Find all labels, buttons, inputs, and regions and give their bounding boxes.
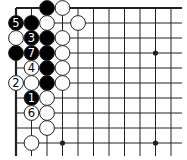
white-stone	[55, 76, 70, 91]
white-stone	[40, 91, 55, 106]
white-stone-icon	[40, 91, 55, 106]
move-number-label: 3	[28, 31, 35, 45]
white-stone	[40, 106, 55, 121]
white-stone	[40, 16, 55, 31]
star-point-icon	[153, 50, 158, 55]
black-stone-icon	[40, 31, 55, 46]
black-stone-icon	[24, 16, 39, 31]
move-number-label: 7	[28, 46, 35, 60]
black-stone: 5	[9, 16, 24, 31]
black-stone	[40, 76, 55, 91]
black-stone-icon	[40, 61, 55, 76]
black-stone-icon	[40, 1, 55, 16]
move-number-label: 5	[12, 16, 19, 30]
black-stone	[9, 46, 24, 61]
white-stone	[55, 1, 70, 16]
star-point-icon	[60, 140, 65, 145]
white-stone-icon	[55, 1, 70, 16]
white-stone	[24, 76, 39, 91]
black-stone-icon	[40, 46, 55, 61]
white-stone-icon	[55, 46, 70, 61]
white-stone: 4	[24, 61, 39, 76]
white-stone: 2	[9, 76, 24, 91]
black-stone: 3	[24, 31, 39, 46]
black-stone	[40, 1, 55, 16]
move-number-label: 6	[28, 106, 35, 120]
black-stone	[40, 61, 55, 76]
white-stone-icon	[24, 76, 39, 91]
white-stone: 6	[24, 106, 39, 121]
white-stone-icon	[71, 16, 86, 31]
move-number-label: 1	[28, 91, 35, 105]
black-stone: 1	[24, 91, 39, 106]
black-stone-icon	[9, 46, 24, 61]
black-stone	[40, 46, 55, 61]
white-stone-icon	[55, 61, 70, 76]
white-stone-icon	[40, 106, 55, 121]
white-stone	[55, 61, 70, 76]
white-stone	[9, 31, 24, 46]
white-stone	[55, 31, 70, 46]
black-stone: 7	[24, 46, 39, 61]
white-stone-icon	[24, 136, 39, 151]
white-stone	[40, 121, 55, 136]
black-stone	[24, 16, 39, 31]
black-stone	[40, 31, 55, 46]
black-stone-icon	[40, 76, 55, 91]
white-stone	[71, 16, 86, 31]
go-board: 5374216	[0, 0, 187, 160]
white-stone	[24, 136, 39, 151]
star-point-icon	[153, 140, 158, 145]
white-stone-icon	[40, 121, 55, 136]
white-stone-icon	[55, 31, 70, 46]
white-stone-icon	[40, 16, 55, 31]
white-stone-icon	[55, 76, 70, 91]
move-number-label: 4	[28, 61, 35, 75]
white-stone-icon	[9, 31, 24, 46]
move-number-label: 2	[12, 76, 19, 90]
white-stone	[55, 46, 70, 61]
